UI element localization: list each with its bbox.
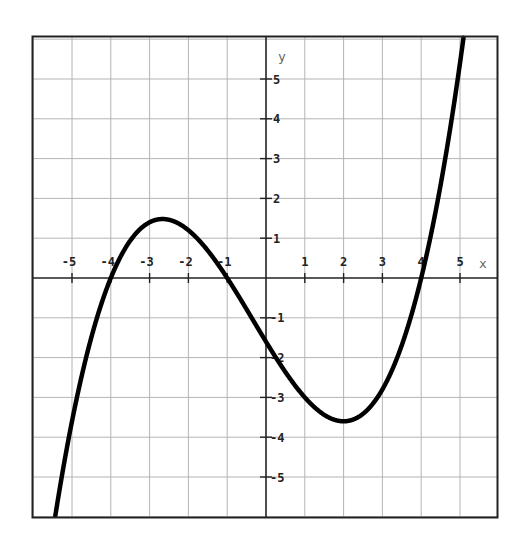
function-graph: -5-4-3-2-112345 54321-1-2-3-4-5 x y xyxy=(0,0,524,545)
y-tick-label: 4 xyxy=(273,112,280,126)
y-tick-label: 3 xyxy=(273,152,280,166)
y-tick-label: 1 xyxy=(273,232,280,246)
y-tick-label: -3 xyxy=(270,391,284,405)
plot-border xyxy=(33,37,498,518)
y-tick-label: -5 xyxy=(270,471,284,485)
y-axis-label: y xyxy=(278,49,286,64)
x-tick-label: -2 xyxy=(178,255,192,269)
y-tick-label: -1 xyxy=(270,311,284,325)
x-axis-label: x xyxy=(479,256,487,271)
function-curve xyxy=(55,38,463,516)
x-tick-label: 5 xyxy=(456,255,463,269)
x-tick-label: 3 xyxy=(379,255,386,269)
y-tick-label: 5 xyxy=(273,73,280,87)
x-tick-label: -4 xyxy=(101,255,115,269)
grid-lines xyxy=(33,37,497,517)
axes xyxy=(33,37,497,517)
y-tick-label: 2 xyxy=(273,192,280,206)
x-tick-label: -3 xyxy=(139,255,153,269)
x-tick-label: 2 xyxy=(340,255,347,269)
x-tick-label: -5 xyxy=(62,255,76,269)
y-tick-label: -4 xyxy=(270,431,284,445)
x-tick-label: 1 xyxy=(301,255,308,269)
